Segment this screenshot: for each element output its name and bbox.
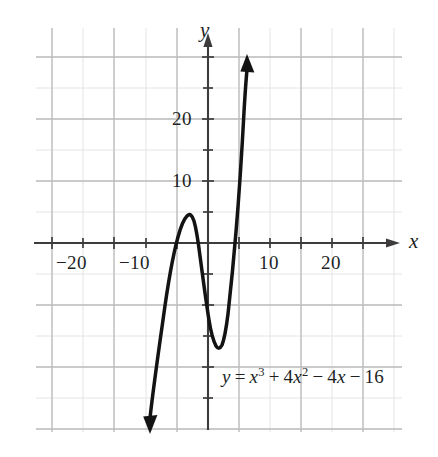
y-axis-label: y xyxy=(200,18,209,43)
equation-plus: + xyxy=(269,366,280,387)
equation-y: y xyxy=(222,366,231,387)
equation-x-cubed-exponent: 3 xyxy=(258,365,264,379)
y-tick-label-10: 10 xyxy=(172,170,192,192)
equation-x-linear-base: x xyxy=(337,366,346,387)
graph-figure: −20 −10 10 20 20 10 y x y=x3+4x2−4x−16 xyxy=(0,0,438,457)
equation-annotation: y=x3+4x2−4x−16 xyxy=(222,365,384,388)
x-tick-label-10: 10 xyxy=(259,252,279,274)
equation-coefficient-4a: 4 xyxy=(284,366,294,387)
x-tick-label--10: −10 xyxy=(119,252,150,274)
x-tick-label--20: −20 xyxy=(56,252,87,274)
equation-coefficient-4b: 4 xyxy=(327,366,337,387)
x-axis-arrowhead xyxy=(386,238,400,247)
x-axis-label: x xyxy=(409,229,418,254)
equation-constant: 16 xyxy=(365,366,384,387)
x-tick-label-20: 20 xyxy=(321,252,341,274)
cartesian-plot xyxy=(0,0,438,457)
equation-x-squared-base: x xyxy=(293,366,302,387)
equation-x-cubed-base: x xyxy=(250,366,259,387)
equation-minus-2: − xyxy=(350,366,361,387)
equation-x-squared-exponent: 2 xyxy=(302,365,308,379)
equation-equals: = xyxy=(235,366,246,387)
equation-minus-1: − xyxy=(312,366,323,387)
y-tick-label-20: 20 xyxy=(172,108,192,130)
curve-arrowhead-down xyxy=(143,415,157,434)
